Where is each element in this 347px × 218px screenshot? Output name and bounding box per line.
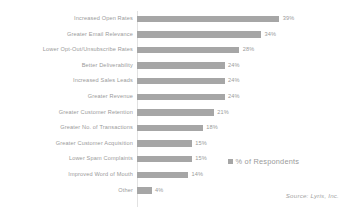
category-label: Increased Sales Leads xyxy=(0,78,137,84)
bar-value-label: 15% xyxy=(195,156,207,162)
bar-value-label: 24% xyxy=(228,63,240,69)
bar-track: 34% xyxy=(137,27,347,43)
category-label: Lower Spam Complaints xyxy=(0,156,137,162)
bar-track: 24% xyxy=(137,58,347,74)
legend-swatch-icon xyxy=(228,159,233,164)
bar-rows: Increased Open Rates39%Greater Email Rel… xyxy=(0,11,347,198)
bar xyxy=(137,172,188,178)
bar-value-label: 24% xyxy=(228,94,240,100)
bar-row: Greater Customer Acquisition15% xyxy=(0,136,347,152)
bar-row: Greater Email Relevance34% xyxy=(0,27,347,43)
bar-row: Lower Opt-Out/Unsubscribe Rates28% xyxy=(0,42,347,58)
source-attribution: Source: Lyris, Inc. xyxy=(286,193,339,199)
chart-legend: % of Respondents xyxy=(228,158,299,165)
legend-label: % of Respondents xyxy=(236,158,300,165)
bar-track: 14% xyxy=(137,167,347,183)
bar xyxy=(137,62,225,68)
bar-row: Increased Sales Leads24% xyxy=(0,73,347,89)
bar-row: Greater No. of Transactions18% xyxy=(0,120,347,136)
bar-value-label: 21% xyxy=(217,110,229,116)
bar xyxy=(137,109,214,115)
bar-row: Improved Word of Mouth14% xyxy=(0,167,347,183)
bar-chart: Increased Open Rates39%Greater Email Rel… xyxy=(0,0,347,218)
category-label: Greater Revenue xyxy=(0,94,137,100)
bar-value-label: 24% xyxy=(228,78,240,84)
bar-value-label: 39% xyxy=(283,16,295,22)
category-label: Increased Open Rates xyxy=(0,16,137,22)
category-label: Greater Customer Acquisition xyxy=(0,141,137,147)
bar-row: Better Deliverability24% xyxy=(0,58,347,74)
bar-track: 21% xyxy=(137,105,347,121)
category-label: Improved Word of Mouth xyxy=(0,172,137,178)
category-label: Other xyxy=(0,188,137,194)
category-label: Greater No. of Transactions xyxy=(0,125,137,131)
bar xyxy=(137,156,192,162)
bar-row: Increased Open Rates39% xyxy=(0,11,347,27)
bar xyxy=(137,140,192,146)
bar xyxy=(137,78,225,84)
bar xyxy=(137,187,152,193)
bar-row: Greater Revenue24% xyxy=(0,89,347,105)
bar-value-label: 15% xyxy=(195,141,207,147)
bar-value-label: 28% xyxy=(243,47,255,53)
plot-area: Increased Open Rates39%Greater Email Rel… xyxy=(0,0,347,218)
category-label: Better Deliverability xyxy=(0,63,137,69)
bar-row: Greater Customer Retention21% xyxy=(0,105,347,121)
bar-value-label: 18% xyxy=(206,125,218,131)
bar xyxy=(137,47,239,53)
bar-value-label: 34% xyxy=(265,32,277,38)
bar-track: 24% xyxy=(137,73,347,89)
bar-track: 24% xyxy=(137,89,347,105)
bar-value-label: 14% xyxy=(192,172,204,178)
bar xyxy=(137,94,225,100)
category-label: Greater Email Relevance xyxy=(0,32,137,38)
bar-track: 39% xyxy=(137,11,347,27)
bar-track: 28% xyxy=(137,42,347,58)
bar-track: 18% xyxy=(137,120,347,136)
bar-track: 15% xyxy=(137,136,347,152)
bar xyxy=(137,16,279,22)
category-label: Greater Customer Retention xyxy=(0,110,137,116)
bar xyxy=(137,31,261,37)
bar-value-label: 4% xyxy=(155,188,163,194)
category-label: Lower Opt-Out/Unsubscribe Rates xyxy=(0,47,137,53)
bar xyxy=(137,125,203,131)
